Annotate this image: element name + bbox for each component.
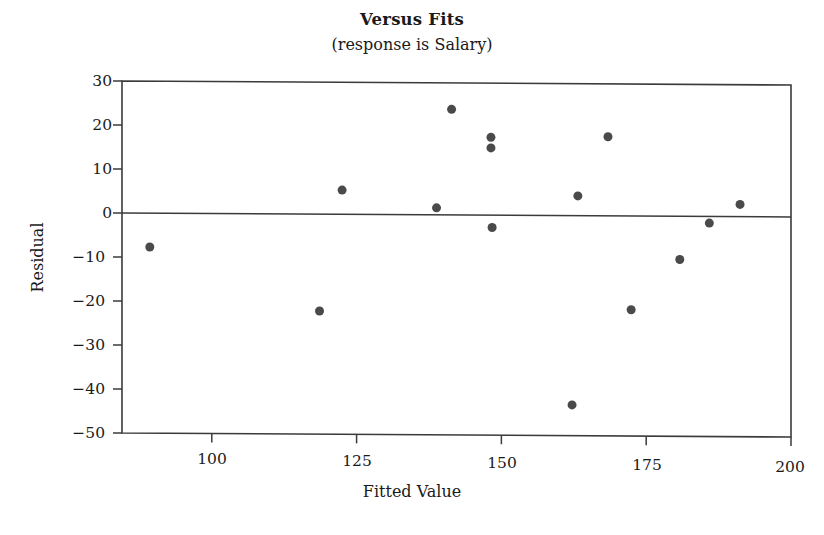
data-point — [736, 200, 745, 209]
y-axis-ticks — [113, 81, 122, 433]
axis-frame — [122, 81, 791, 437]
data-point — [705, 219, 714, 228]
x-axis-ticks — [212, 434, 791, 446]
data-point — [627, 305, 636, 314]
zero-reference-line — [122, 213, 791, 217]
data-point — [568, 400, 577, 409]
data-point — [573, 191, 582, 200]
plot-area — [0, 0, 824, 535]
versus-fits-chart: Versus Fits (response is Salary) Residua… — [0, 0, 824, 535]
zero-line — [122, 213, 791, 217]
data-point — [447, 105, 456, 114]
data-point — [432, 203, 441, 212]
data-point — [486, 133, 495, 142]
data-point — [145, 243, 154, 252]
data-point — [486, 143, 495, 152]
data-point — [675, 255, 684, 264]
data-point — [338, 186, 347, 195]
data-points — [145, 105, 744, 410]
data-point — [603, 132, 612, 141]
data-point — [488, 223, 497, 232]
data-point — [315, 306, 324, 315]
